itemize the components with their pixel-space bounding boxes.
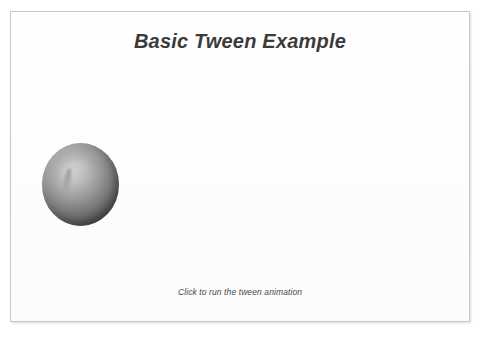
tween-ball[interactable] xyxy=(42,143,119,226)
page-surface: Basic Tween Example Click to run the twe… xyxy=(0,0,482,337)
page-title: Basic Tween Example xyxy=(11,30,469,53)
tween-stage-frame[interactable]: Basic Tween Example Click to run the twe… xyxy=(10,11,470,322)
stage-hint-text: Click to run the tween animation xyxy=(11,287,469,297)
tween-stage-canvas[interactable]: Basic Tween Example Click to run the twe… xyxy=(11,12,469,321)
ball-rim-shading xyxy=(42,143,119,226)
